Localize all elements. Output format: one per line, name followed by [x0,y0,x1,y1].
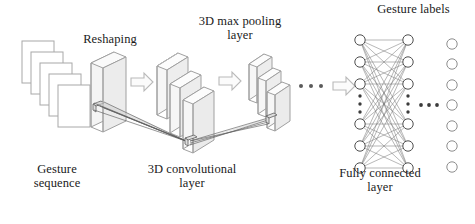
output-node [447,100,457,110]
fc-node [355,119,365,129]
fc-connections [360,40,408,168]
fc-node [403,57,413,67]
arrow-conv-to-pool [219,72,241,90]
output-node [447,59,457,69]
output-node [447,80,457,90]
label-max-pooling-layer: 3D max pooling layer [178,14,302,42]
arrow-reshape-to-conv [131,73,153,91]
label-gesture-sequence: Gesture sequence [2,162,112,190]
fc-node [403,141,413,151]
ellipsis-fc-to-labels [419,103,439,107]
label-reshaping: Reshaping [52,32,168,46]
ellipsis-after-pool [299,84,323,88]
fc-node [403,35,413,45]
label-fully-connected-layer: Fully connected layer [300,166,460,194]
maxpool-layer-cuboids [249,54,290,131]
fc-node [355,79,365,89]
output-node [447,141,457,151]
fc-node [355,141,365,151]
pool-cuboid-3 [267,82,290,131]
ellipsis-fc-left-column [358,94,361,113]
label-gesture-labels: Gesture labels [352,2,475,16]
gesture-sequence-frames [22,41,90,127]
output-node [447,39,457,49]
fc-node [355,57,365,67]
ellipsis-fc-right-column [406,94,409,113]
output-node [447,121,457,131]
fc-node [403,119,413,129]
fc-node [355,35,365,45]
arrow-pool-to-fc [333,77,355,95]
output-nodes [447,39,457,172]
figure-canvas: Reshaping 3D max pooling layer Gesture l… [0,0,475,224]
fc-node [403,79,413,89]
reshaping-cuboid [91,52,126,132]
label-convolutional-layer: 3D convolutional layer [112,162,272,190]
